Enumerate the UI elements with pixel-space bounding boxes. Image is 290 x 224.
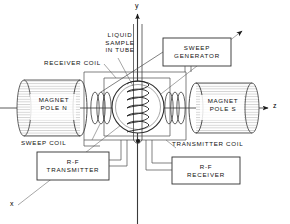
label-sweep-coil: SWEEP COIL <box>21 139 83 147</box>
label-rf-transmitter: R-F TRANSMITTER <box>37 158 109 174</box>
axis-label-y: y <box>135 2 139 10</box>
label-magnet-pole-s: MAGNET POLE S <box>199 97 247 112</box>
label-rf-receiver: R-F RECEIVER <box>172 163 240 179</box>
nmr-spectrometer-diagram: LIQUID SAMPLE IN TUBE RECEIVER COIL SWEE… <box>0 0 290 224</box>
label-sweep-generator: SWEEP GENERATOR <box>163 44 231 60</box>
label-transmitter-coil: TRANSMITTER COIL <box>172 140 260 148</box>
axis-label-z: z <box>273 102 277 110</box>
wire-junction-dot <box>136 139 140 143</box>
label-receiver-coil: RECEIVER COIL <box>44 59 114 67</box>
label-liquid-sample: LIQUID SAMPLE IN TUBE <box>92 31 148 54</box>
label-magnet-pole-n: MAGNET POLE N <box>29 96 79 111</box>
axis-label-x: x <box>10 200 14 208</box>
